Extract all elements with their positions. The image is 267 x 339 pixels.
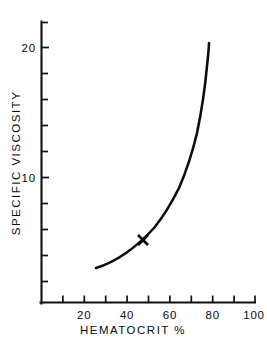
x-tick-label-60: 60	[163, 309, 177, 321]
figure-panel: 20 10 20 40 60 80 100 HEMATOCRIT % SPECI…	[0, 0, 267, 339]
y-axis-ticks	[42, 23, 50, 282]
y-tick-label-20: 20	[22, 42, 36, 54]
x-tick-label-20: 20	[77, 309, 91, 321]
x-axis-title: HEMATOCRIT %	[80, 324, 186, 336]
y-axis-title: SPECIFIC VISCOSITY	[10, 91, 22, 236]
viscosity-hematocrit-chart: 20 10 20 40 60 80 100 HEMATOCRIT % SPECI…	[0, 0, 267, 339]
x-tick-label-40: 40	[120, 309, 134, 321]
x-tick-label-80: 80	[205, 309, 219, 321]
axes-group	[41, 22, 256, 304]
data-series-group	[96, 43, 209, 268]
viscosity-curve	[96, 43, 209, 268]
y-tick-label-10: 10	[22, 172, 36, 184]
x-tick-label-100: 100	[243, 309, 265, 321]
data-point-marker	[138, 235, 148, 245]
